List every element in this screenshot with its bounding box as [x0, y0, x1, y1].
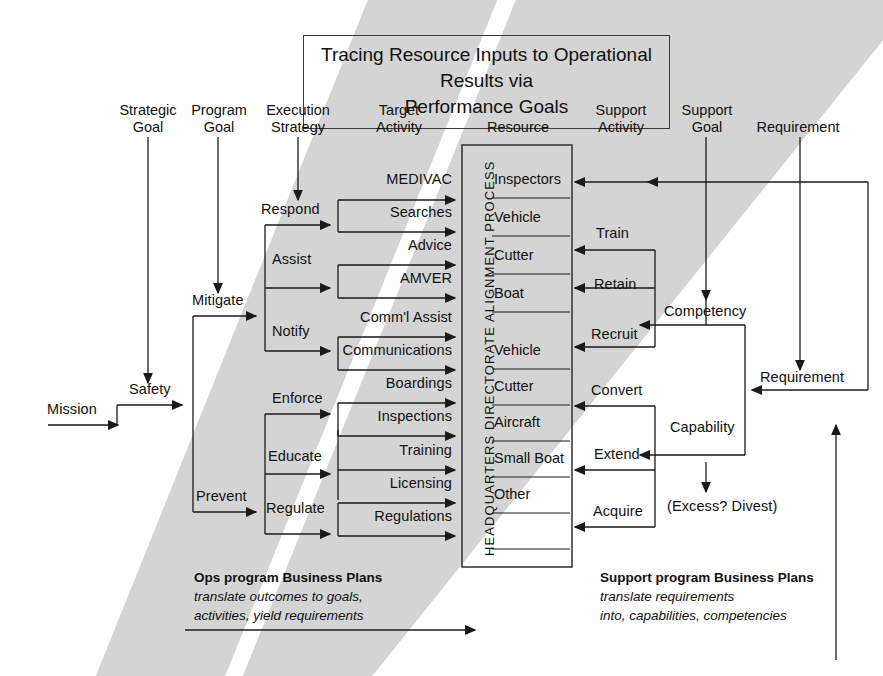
column-header-support-activity: Support Activity	[578, 102, 664, 136]
node-train: Train	[596, 225, 629, 241]
resource-boat: Boat	[494, 285, 524, 301]
support-plan-line-2: into, capabilities, competencies	[600, 608, 787, 623]
column-header-program-goal: Program Goal	[180, 102, 258, 136]
ops-plan-line-1: translate outcomes to goals,	[194, 589, 363, 604]
ops-plan-line-2: activities, yield requirements	[194, 608, 364, 623]
node-advice: Advice	[290, 237, 452, 253]
title-line-1: Tracing Resource Inputs to Operational R…	[314, 42, 659, 94]
node-regulations: Regulations	[290, 508, 452, 524]
resource-other: Other	[494, 486, 530, 502]
node-requirement-right: Requirement	[760, 369, 844, 385]
resource-small-boat: Small Boat	[494, 450, 564, 466]
node-capability: Capability	[670, 419, 735, 435]
resource-cutter-1: Cutter	[494, 247, 534, 263]
node-amver: AMVER	[290, 270, 452, 286]
node-inspections: Inspections	[290, 408, 452, 424]
column-header-support-goal: Support Goal	[668, 102, 746, 136]
resource-cutter-2: Cutter	[494, 378, 534, 394]
node-boardings: Boardings	[290, 375, 452, 391]
node-extend: Extend	[594, 446, 640, 462]
resource-inspectors: Inspectors	[494, 171, 561, 187]
diagram-canvas: Tracing Resource Inputs to Operational R…	[0, 0, 883, 676]
node-notify: Notify	[272, 323, 310, 339]
node-excess-divest: (Excess? Divest)	[667, 498, 777, 514]
support-plan-heading: Support program Business Plans	[600, 570, 814, 585]
node-safety: Safety	[129, 381, 171, 397]
resource-vehicle-1: Vehicle	[494, 209, 541, 225]
resource-vehicle-2: Vehicle	[494, 342, 541, 358]
column-header-execution-strategy: Execution Strategy	[252, 102, 344, 136]
column-header-strategic-goal: Strategic Goal	[108, 102, 188, 136]
ops-plan-heading: Ops program Business Plans	[194, 570, 382, 585]
node-competency: Competency	[664, 303, 746, 319]
node-medivac: MEDIVAC	[290, 171, 452, 187]
column-header-resource: Resource	[468, 119, 568, 136]
node-mitigate: Mitigate	[192, 292, 244, 308]
column-header-requirement: Requirement	[744, 119, 852, 136]
node-communications: Communications	[290, 342, 452, 358]
node-prevent: Prevent	[196, 488, 247, 504]
node-commercial-assist: Comm'l Assist	[290, 309, 452, 325]
node-enforce: Enforce	[272, 390, 323, 406]
node-searches: Searches	[290, 204, 452, 220]
node-recruit: Recruit	[591, 326, 638, 342]
node-licensing: Licensing	[290, 475, 452, 491]
node-convert: Convert	[591, 382, 642, 398]
node-training: Training	[290, 442, 452, 458]
node-mission: Mission	[47, 401, 97, 417]
support-plan-line-1: translate requirements	[600, 589, 734, 604]
node-acquire: Acquire	[593, 503, 643, 519]
node-retain: Retain	[594, 276, 637, 292]
node-assist: Assist	[272, 251, 311, 267]
resource-aircraft: Aircraft	[494, 414, 540, 430]
column-header-target-activity: Target Activity	[355, 102, 443, 136]
